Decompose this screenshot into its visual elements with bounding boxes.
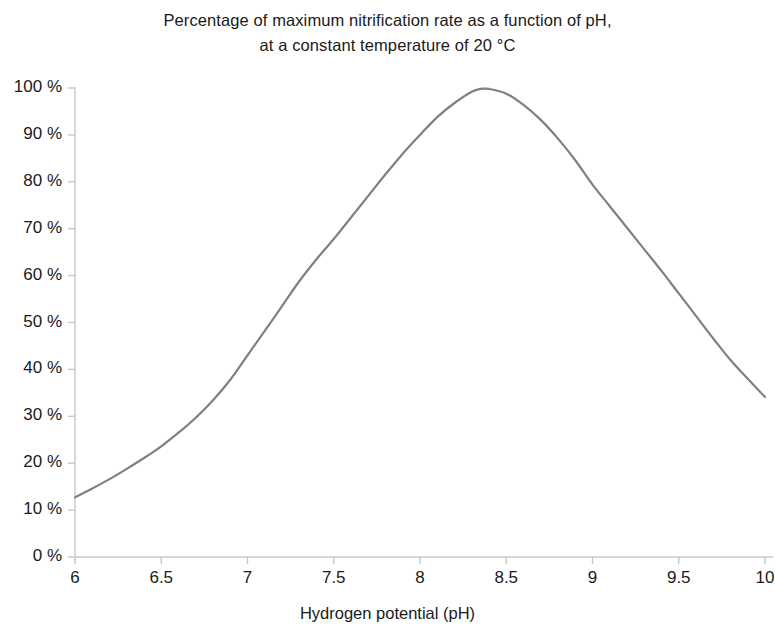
x-axis-tick-label: 9: [553, 568, 633, 588]
x-axis-tick-label: 6.5: [121, 568, 201, 588]
x-axis-tick-label: 8: [380, 568, 460, 588]
x-axis-tick-label: 10: [725, 568, 775, 588]
x-axis-tick-label: 7: [208, 568, 288, 588]
x-axis-tick-label: 8.5: [466, 568, 546, 588]
y-axis-tick-label: 30 %: [0, 405, 62, 425]
y-axis-tick-label: 60 %: [0, 265, 62, 285]
y-axis-tick-label: 80 %: [0, 171, 62, 191]
data-series: [75, 88, 765, 497]
x-axis-title: Hydrogen potential (pH): [0, 604, 775, 623]
y-axis-tick-label: 10 %: [0, 499, 62, 519]
axes: [68, 87, 773, 564]
y-axis-tick-label: 20 %: [0, 452, 62, 472]
y-axis-tick-label: 100 %: [0, 77, 62, 97]
chart-container: Percentage of maximum nitrification rate…: [0, 0, 775, 634]
x-axis-tick-label: 9.5: [639, 568, 719, 588]
y-axis-tick-label: 70 %: [0, 218, 62, 238]
nitrification-rate-curve: [75, 88, 765, 497]
x-axis-tick-label: 7.5: [294, 568, 374, 588]
y-axis-tick-label: 90 %: [0, 124, 62, 144]
y-axis-tick-label: 50 %: [0, 312, 62, 332]
x-axis-tick-label: 6: [35, 568, 115, 588]
plot-area: [0, 0, 775, 634]
y-axis-tick-label: 40 %: [0, 358, 62, 378]
y-axis-tick-label: 0 %: [0, 546, 62, 566]
